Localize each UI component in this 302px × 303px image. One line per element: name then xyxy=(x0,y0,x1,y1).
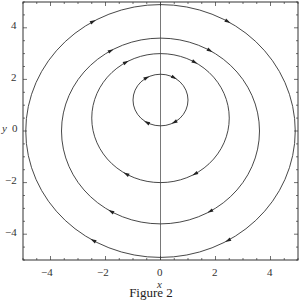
y-tick-label: −4 xyxy=(5,226,17,238)
figure-caption: Figure 2 xyxy=(0,285,302,301)
direction-arrow-icon xyxy=(172,119,178,123)
direction-arrow-icon xyxy=(225,237,231,241)
y-tick-label: 2 xyxy=(11,71,17,83)
y-tick-label: −2 xyxy=(5,174,17,186)
direction-arrow-icon xyxy=(144,121,150,125)
direction-arrow-icon xyxy=(123,173,129,177)
direction-arrow-icon xyxy=(143,76,149,80)
x-tick-label: −4 xyxy=(41,266,53,278)
direction-arrow-icon xyxy=(108,210,114,214)
direction-arrow-icon xyxy=(90,239,96,243)
orbit-curves xyxy=(26,2,296,260)
y-axis-label: y xyxy=(2,122,7,134)
y-tick-label: 4 xyxy=(11,19,17,31)
direction-arrow-icon xyxy=(224,19,230,23)
direction-arrow-icon xyxy=(207,48,213,52)
direction-arrow-icon xyxy=(207,208,213,212)
x-tick-label: 0 xyxy=(157,266,163,278)
direction-arrow-icon xyxy=(171,75,177,79)
direction-arrow-icon xyxy=(108,49,114,53)
x-tick-label: 4 xyxy=(267,266,273,278)
direction-arrow-icon xyxy=(123,61,129,65)
direction-arrow-icon xyxy=(90,20,96,24)
x-tick-label: 2 xyxy=(212,266,218,278)
x-tick-label: −2 xyxy=(97,266,109,278)
direction-arrow-icon xyxy=(192,171,198,175)
phase-portrait-plot xyxy=(0,0,302,303)
direction-arrow-icon xyxy=(191,59,197,63)
y-tick-label: 0 xyxy=(12,122,18,134)
